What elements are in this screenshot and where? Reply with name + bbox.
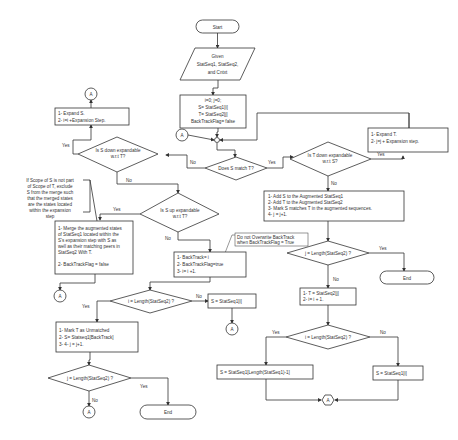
svg-text:StatSeq1, StatSeq2,: StatSeq1, StatSeq2,: [197, 62, 239, 67]
svg-text:w.r.t T?: w.r.t T?: [111, 154, 126, 159]
flowchart: Start Given StatSeq1, StatSeq2, and Cntx…: [0, 0, 458, 440]
s-i-mid-box: S = StatSeq1[i]: [208, 294, 256, 308]
svg-text:BackTrackFlag= false: BackTrackFlag= false: [191, 119, 236, 124]
svg-text:1- Merge the augmented state: 1- Merge the augmented states: [58, 226, 123, 231]
decision-is-s-up: Is S up expandable w.r.t T?: [140, 193, 219, 232]
connector-a-top-left: A: [85, 88, 97, 100]
svg-text:If Scope of S is not part: If Scope of S is not part: [26, 178, 74, 183]
svg-text:Yes: Yes: [377, 152, 385, 157]
connector-a-bottom-right: A: [322, 395, 334, 405]
svg-text:j = Length(StatSeq2) ?: j = Length(StatSeq2) ?: [304, 251, 352, 256]
svg-text:1- Expand T.: 1- Expand T.: [371, 132, 397, 137]
end-terminal-left: End: [140, 405, 196, 419]
svg-text:step: step: [46, 214, 55, 219]
svg-text:when BackTrackFlag = True: when BackTrackFlag = True: [237, 240, 295, 245]
svg-text:within the expansion: within the expansion: [29, 208, 71, 213]
svg-text:1- Expand S.: 1- Expand S.: [58, 111, 85, 116]
svg-text:Is S up expandable: Is S up expandable: [160, 208, 200, 213]
end-terminal-right: End: [380, 271, 434, 284]
svg-text:Yes: Yes: [268, 160, 276, 165]
expand-t-box: 1- Expand T. 2- j=j + Expansion step.: [368, 128, 448, 152]
note-overwrite: Do not Overwrite BackTrack when BackTrac…: [235, 233, 308, 246]
svg-text:Is S down expandable: Is S down expandable: [95, 148, 141, 153]
junction-node: [215, 138, 220, 143]
unmatched-box: 1- Mark T as Unmatched 2- S= Statseq1[Ba…: [56, 322, 138, 352]
s-i-right-box: S = StatSeq1[i]: [373, 366, 423, 380]
expand-s-box: 1- Expand S. 2- i=i +Expansion Step.: [55, 108, 129, 125]
svg-text:No: No: [165, 236, 171, 241]
s-last-box: S = StatSeq1[Length(StatSeq1)-1]: [217, 365, 313, 379]
svg-text:S = StatSeq1[i]: S = StatSeq1[i]: [211, 299, 242, 304]
svg-text:Does S match T?: Does S match T?: [218, 166, 254, 171]
svg-text:S from the merge such: S from the merge such: [27, 190, 74, 195]
svg-text:S= StatSeq1[i]: S= StatSeq1[i]: [198, 105, 228, 110]
connector-a-top: A: [176, 129, 188, 141]
t-next-box: 1- T = StatSeq2[j] 2- i= i + 1.: [300, 288, 356, 305]
svg-text:No: No: [126, 178, 132, 183]
svg-text:Yes: Yes: [140, 384, 148, 389]
svg-text:S = StatSeq1[i]: S = StatSeq1[i]: [376, 371, 407, 376]
svg-text:2- i= i + 1.: 2- i= i + 1.: [303, 297, 323, 302]
decision-i-length-right: i = Length(StatSeq2) ?: [286, 325, 370, 349]
svg-text:End: End: [403, 276, 412, 281]
backtrack-box: 1- BackTrack= i 2- BackTrackFlag=true 3-…: [174, 252, 246, 277]
svg-text:that the merged states: that the merged states: [27, 196, 73, 201]
svg-text:No: No: [380, 330, 386, 335]
svg-text:of StatSeq1 located within the: of StatSeq1 located within the: [58, 232, 119, 237]
svg-text:1- T = StatSeq2[j]: 1- T = StatSeq2[j]: [303, 291, 339, 296]
svg-text:3- 4- j = j+1.: 3- 4- j = j+1.: [59, 342, 84, 347]
svg-text:are the states located: are the states located: [28, 202, 72, 207]
svg-text:Yes: Yes: [272, 330, 280, 335]
svg-text:End: End: [164, 410, 173, 415]
given-input: Given StatSeq1, StatSeq2, and Cntxt: [180, 48, 255, 80]
svg-text:StatSeq2 With T.: StatSeq2 With T.: [58, 250, 92, 255]
svg-text:No: No: [92, 398, 98, 403]
svg-text:of Scope of T, exclude: of Scope of T, exclude: [27, 184, 73, 189]
svg-text:well as their matching peers i: well as their matching peers in: [58, 244, 120, 249]
svg-text:w.r.t S?: w.r.t S?: [322, 159, 338, 164]
svg-text:2- i=i +Expansion Step.: 2- i=i +Expansion Step.: [58, 118, 106, 123]
svg-text:Do not Overwrite BackTrack: Do not Overwrite BackTrack: [237, 235, 295, 240]
svg-text:3- i= i +1.: 3- i= i +1.: [177, 269, 196, 274]
svg-text:No: No: [333, 277, 339, 282]
svg-text:S's expansion step with S as: S's expansion step with S as: [58, 238, 117, 243]
svg-text:i=0; j=0;: i=0; j=0;: [205, 98, 221, 103]
svg-text:3- Mark S matches T in the a: 3- Mark S matches T in the augmented seq…: [268, 206, 372, 211]
connector-a-mid: A: [226, 323, 238, 335]
svg-text:No: No: [190, 160, 196, 165]
svg-text:Yes: Yes: [379, 246, 387, 251]
decision-does-s-match: Does S match T?: [205, 157, 267, 180]
svg-text:1- BackTrack= i: 1- BackTrack= i: [177, 255, 209, 260]
svg-text:No: No: [331, 181, 337, 186]
svg-text:w.r.t T?: w.r.t T?: [173, 214, 188, 219]
svg-text:Yes: Yes: [82, 304, 90, 309]
merge-box: 1- Merge the augmented states of StatSeq…: [55, 221, 133, 274]
svg-text:Start: Start: [213, 25, 223, 30]
note-scope: If Scope of S is not part of Scope of T,…: [26, 178, 74, 219]
connector-a-left: A: [54, 290, 66, 302]
svg-text:Is T down expandable: Is T down expandable: [308, 153, 353, 158]
svg-text:4- j = j+1.: 4- j = j+1.: [268, 212, 287, 217]
svg-text:and Cntxt: and Cntxt: [208, 70, 228, 75]
start-terminal: Start: [196, 20, 239, 33]
svg-text:1- Mark T as Unmatched: 1- Mark T as Unmatched: [59, 328, 110, 333]
svg-text:2- BackTrackFlag=true: 2- BackTrackFlag=true: [177, 262, 224, 267]
svg-text:i = Length(StatSeq2) ?: i = Length(StatSeq2) ?: [128, 299, 175, 304]
svg-text:Yes: Yes: [113, 207, 121, 212]
connector-a-bottom-left: A: [83, 406, 95, 418]
svg-text:1- Add S to the Augmented St: 1- Add S to the Augmented StatSeq1: [268, 194, 344, 199]
svg-text:2- j=j + Expansion step.: 2- j=j + Expansion step.: [371, 139, 419, 144]
svg-text:T= StatSeq2[j]: T= StatSeq2[j]: [198, 112, 227, 117]
decision-j-length-left: j = Length(StatSeq2) ?: [48, 365, 131, 391]
add-augmented-box: 1- Add S to the Augmented StatSeq1 2- Ad…: [264, 191, 404, 221]
decision-is-t-down: Is T down expandable w.r.t S?: [290, 142, 371, 176]
decision-i-length-left: i = Length(StatSeq2) ?: [110, 290, 192, 313]
svg-text:2- BackTrackFlag = false: 2- BackTrackFlag = false: [58, 262, 109, 267]
svg-text:Given: Given: [211, 54, 223, 59]
svg-text:S = StatSeq1[Length(StatSeq1)-: S = StatSeq1[Length(StatSeq1)-1]: [220, 370, 290, 375]
svg-text:Yes: Yes: [62, 143, 70, 148]
init-box: i=0; j=0; S= StatSeq1[i] T= StatSeq2[j] …: [180, 95, 246, 128]
svg-text:j = Length(StatSeq2) ?: j = Length(StatSeq2) ?: [66, 376, 114, 381]
svg-text:2- S= Statseq1[BackTrack]: 2- S= Statseq1[BackTrack]: [59, 335, 114, 340]
svg-text:2- Add T to the Augmented St: 2- Add T to the Augmented StatSeq2: [268, 200, 343, 205]
